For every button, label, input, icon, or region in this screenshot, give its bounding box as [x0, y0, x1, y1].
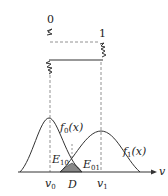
level-0-label: 0	[47, 14, 54, 25]
f0-label: f0(x)	[60, 122, 83, 135]
e01-label: E01	[83, 159, 100, 172]
noise-glyph-0-bottom	[46, 61, 52, 74]
f1-label: f1(x)	[123, 146, 146, 159]
e10-label: E10	[52, 154, 69, 167]
axis-label-v: v	[159, 166, 165, 177]
tick-v0: v0	[45, 178, 56, 191]
tick-v1: v1	[97, 178, 108, 191]
noise-glyph-1	[100, 43, 106, 57]
tick-threshold-d: D	[68, 179, 77, 190]
level-1-label: 1	[99, 28, 106, 39]
axis-arrow-icon	[151, 170, 157, 175]
noise-glyph-0-top	[47, 29, 52, 35]
threshold-detection-diagram: 0 1 f0(x) f1(x) E10 E01 v0 D v1 v	[0, 0, 168, 196]
